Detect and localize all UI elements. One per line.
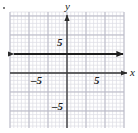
y-axis-variable-label: y — [65, 1, 70, 12]
y-axis-tick-label-5: 5 — [57, 37, 63, 48]
graph-figure: y x 5 –5 –5 5 — [0, 0, 138, 133]
y-axis-tick-label-negative-5: –5 — [52, 101, 63, 112]
x-axis-tick-label-5: 5 — [94, 75, 100, 86]
x-axis-tick-label-negative-5: –5 — [31, 75, 42, 86]
coordinate-plane — [0, 0, 138, 133]
x-axis-variable-label: x — [130, 67, 135, 78]
